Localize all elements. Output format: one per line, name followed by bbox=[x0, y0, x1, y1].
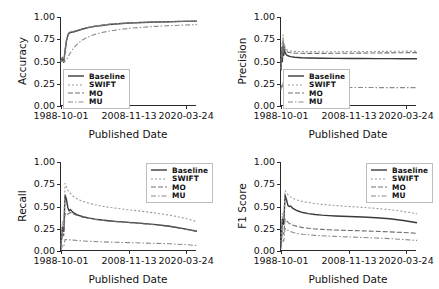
legend-label-mu: MU bbox=[172, 192, 186, 199]
legend-item-swift: SWIFT bbox=[287, 81, 345, 90]
y-tick-label-recall-2: 0.50 bbox=[34, 202, 55, 212]
y-axis-label-precision: Precision bbox=[236, 38, 248, 85]
legend-item-swift: SWIFT bbox=[370, 175, 428, 184]
legend-label-mu: MU bbox=[309, 98, 323, 105]
y-tick-label-precision-4: 1.00 bbox=[254, 12, 275, 22]
legend-key-swift-icon bbox=[67, 81, 85, 89]
legend-label-mo: MO bbox=[392, 184, 406, 191]
line-accuracy-swift bbox=[61, 21, 197, 61]
line-precision-baseline bbox=[281, 45, 417, 70]
legend-key-baseline-icon bbox=[287, 72, 305, 80]
legend-item-swift: SWIFT bbox=[67, 81, 125, 90]
x-axis-label-precision: Published Date bbox=[280, 128, 416, 140]
y-tick-label-accuracy-3: 0.75 bbox=[34, 35, 55, 45]
y-tick-label-precision-1: 0.25 bbox=[254, 79, 275, 89]
y-axis-label-wrap-f1-score: F1 Score bbox=[237, 145, 251, 251]
y-tick-label-precision-3: 0.75 bbox=[254, 35, 275, 45]
y-tick-label-accuracy-2: 0.50 bbox=[34, 57, 55, 67]
legend-label-swift: SWIFT bbox=[89, 81, 116, 88]
panel-accuracy: Accuracy 0.000.250.500.751.001988-10-012… bbox=[0, 0, 219, 144]
legend-label-baseline: Baseline bbox=[392, 167, 428, 174]
x-tick-label-recall-1: 2008-11-13 bbox=[101, 256, 156, 266]
figure-metrics-over-published-date: Accuracy 0.000.250.500.751.001988-10-012… bbox=[0, 0, 439, 289]
legend-label-mo: MO bbox=[309, 90, 323, 97]
y-tick-label-recall-1: 0.25 bbox=[34, 224, 55, 234]
y-axis-label-accuracy: Accuracy bbox=[16, 37, 28, 85]
x-tick-label-f1_score-2: 2020-03-24 bbox=[379, 256, 434, 266]
line-precision-mo bbox=[281, 40, 417, 69]
legend-item-mu: MU bbox=[67, 98, 125, 107]
legend-key-baseline-icon bbox=[370, 166, 388, 174]
legend-label-swift: SWIFT bbox=[309, 81, 336, 88]
x-tick-label-recall-2: 2020-03-24 bbox=[159, 256, 214, 266]
line-accuracy-baseline bbox=[61, 21, 197, 62]
y-axis-label-wrap-precision: Precision bbox=[237, 0, 251, 106]
x-tick-label-precision-1: 2008-11-13 bbox=[321, 111, 376, 121]
y-axis-label-f1-score: F1 Score bbox=[236, 183, 248, 228]
panel-f1-score: F1 Score 0.000.250.500.751.001988-10-012… bbox=[220, 145, 439, 289]
y-axis-label-recall: Recall bbox=[16, 190, 28, 221]
legend-key-baseline-icon bbox=[67, 72, 85, 80]
legend-accuracy: BaselineSWIFTMOMU bbox=[63, 69, 130, 109]
legend-f1-score: BaselineSWIFTMOMU bbox=[366, 163, 433, 203]
y-tick-label-f1_score-4: 1.00 bbox=[254, 157, 275, 167]
legend-key-mu-icon bbox=[67, 98, 85, 106]
legend-key-baseline-icon bbox=[150, 166, 168, 174]
y-tick-label-precision-2: 0.50 bbox=[254, 57, 275, 67]
panel-recall: Recall 0.000.250.500.751.001988-10-01200… bbox=[0, 145, 219, 289]
legend-label-mu: MU bbox=[392, 192, 406, 199]
y-tick-label-recall-4: 1.00 bbox=[34, 157, 55, 167]
y-axis-label-wrap-accuracy: Accuracy bbox=[17, 0, 31, 106]
y-tick-label-f1_score-3: 0.75 bbox=[254, 180, 275, 190]
legend-key-mo-icon bbox=[287, 89, 305, 97]
legend-key-mu-icon bbox=[150, 192, 168, 200]
line-f1_score-mo bbox=[281, 219, 417, 246]
y-tick-label-recall-3: 0.75 bbox=[34, 180, 55, 190]
legend-item-mu: MU bbox=[150, 192, 208, 201]
legend-label-mo: MO bbox=[89, 90, 103, 97]
legend-key-mu-icon bbox=[287, 98, 305, 106]
line-recall-mu bbox=[61, 239, 197, 250]
x-axis-label-f1-score: Published Date bbox=[280, 273, 416, 285]
legend-label-swift: SWIFT bbox=[172, 175, 199, 182]
legend-recall: BaselineSWIFTMOMU bbox=[146, 163, 213, 203]
x-tick-label-accuracy-2: 2020-03-24 bbox=[159, 111, 214, 121]
y-tick-label-f1_score-1: 0.25 bbox=[254, 224, 275, 234]
legend-label-mo: MO bbox=[172, 184, 186, 191]
x-tick-label-f1_score-0: 1988-10-01 bbox=[253, 256, 308, 266]
x-tick-label-recall-0: 1988-10-01 bbox=[33, 256, 88, 266]
x-tick-label-accuracy-0: 1988-10-01 bbox=[33, 111, 88, 121]
legend-label-swift: SWIFT bbox=[392, 175, 419, 182]
legend-key-swift-icon bbox=[150, 175, 168, 183]
x-tick-label-f1_score-1: 2008-11-13 bbox=[321, 256, 376, 266]
line-recall-mo bbox=[61, 213, 197, 247]
y-tick-label-f1_score-2: 0.50 bbox=[254, 202, 275, 212]
x-tick-label-accuracy-1: 2008-11-13 bbox=[101, 111, 156, 121]
legend-key-mo-icon bbox=[67, 89, 85, 97]
legend-precision: BaselineSWIFTMOMU bbox=[283, 69, 350, 109]
y-axis-label-wrap-recall: Recall bbox=[17, 145, 31, 251]
legend-key-swift-icon bbox=[287, 81, 305, 89]
x-axis-label-recall: Published Date bbox=[60, 273, 196, 285]
legend-item-swift: SWIFT bbox=[150, 175, 208, 184]
x-tick-label-precision-0: 1988-10-01 bbox=[253, 111, 308, 121]
x-axis-label-accuracy: Published Date bbox=[60, 128, 196, 140]
line-precision-swift bbox=[281, 35, 417, 69]
panel-precision: Precision 0.000.250.500.751.001988-10-01… bbox=[220, 0, 439, 144]
line-accuracy-mo bbox=[61, 21, 197, 62]
line-f1_score-mu bbox=[281, 228, 417, 249]
y-tick-label-accuracy-4: 1.00 bbox=[34, 12, 55, 22]
legend-item-mu: MU bbox=[287, 98, 345, 107]
legend-key-swift-icon bbox=[370, 175, 388, 183]
y-tick-label-accuracy-1: 0.25 bbox=[34, 79, 55, 89]
legend-item-mu: MU bbox=[370, 192, 428, 201]
legend-key-mu-icon bbox=[370, 192, 388, 200]
legend-label-baseline: Baseline bbox=[89, 73, 125, 80]
legend-label-baseline: Baseline bbox=[172, 167, 208, 174]
legend-key-mo-icon bbox=[150, 183, 168, 191]
legend-key-mo-icon bbox=[370, 183, 388, 191]
legend-label-baseline: Baseline bbox=[309, 73, 345, 80]
x-tick-label-precision-2: 2020-03-24 bbox=[379, 111, 434, 121]
legend-label-mu: MU bbox=[89, 98, 103, 105]
